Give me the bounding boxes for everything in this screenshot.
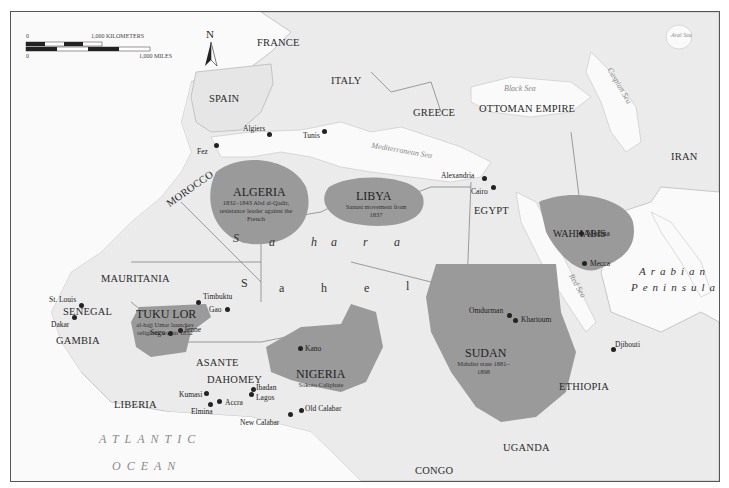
label-aral-sea: Aral Sea — [671, 32, 692, 38]
label-liberia: LIBERIA — [114, 400, 157, 411]
city-new-calabar: New Calabar — [240, 419, 279, 427]
city-medina: Medina — [587, 230, 610, 238]
label-sahel-4: e — [364, 282, 374, 294]
label-sahara-5: r — [363, 236, 373, 248]
city-dot-lagos — [249, 392, 254, 397]
label-sahara-6: a — [394, 236, 405, 248]
label-france: FRANCE — [257, 38, 300, 49]
city-jenne: Jenne — [184, 326, 201, 334]
city-segu: Segu — [150, 329, 165, 337]
region-algeria-sub: 1832–1843 Abd al-Qadir, resistance leade… — [216, 199, 296, 222]
city-kumasi: Kumasi — [179, 391, 202, 399]
city-dot-segu — [168, 331, 173, 336]
city-dot-alexandria — [482, 176, 487, 181]
city-timbuktu: Timbuktu — [203, 293, 232, 301]
city-ibadan: Ibadan — [256, 384, 276, 392]
label-black-sea: Black Sea — [504, 85, 536, 93]
label-ocean: OCEAN — [112, 460, 181, 472]
city-tunis: Tunis — [303, 132, 320, 140]
city-dot-tunis — [322, 129, 327, 134]
city-dot-medina — [579, 231, 584, 236]
region-nigeria-sub: Sokoto Caliphate — [286, 381, 356, 389]
city-dot-old-calabar — [299, 408, 304, 413]
label-sahel-5: l — [406, 280, 414, 292]
city-lagos: Lagos — [256, 394, 274, 402]
scale-mi-label: 1,000 MILES — [139, 53, 172, 59]
label-iran: IRAN — [671, 152, 697, 163]
city-dot-mecca — [582, 261, 587, 266]
label-sahara-4: a — [331, 236, 342, 248]
label-italy: ITALY — [331, 76, 362, 87]
region-nigeria-title: NIGERIA — [296, 368, 345, 380]
city-dakar: Dakar — [51, 321, 69, 329]
label-sahel-2: a — [279, 282, 289, 294]
city-djibouti: Djibouti — [615, 341, 640, 349]
label-peninsula: Peninsula — [631, 282, 720, 293]
region-algeria-title: ALGERIA — [233, 186, 286, 198]
city-accra: Accra — [225, 399, 243, 407]
city-dot-kano — [298, 346, 303, 351]
map-frame: 0 1,000 KILOMETERS 0 1,000 MILES N FRANC… — [10, 11, 720, 482]
city-dot-jenne — [178, 328, 183, 333]
label-uganda: UGANDA — [503, 443, 550, 454]
city-cairo: Cairo — [471, 188, 488, 196]
city-st-louis: St. Louis — [49, 296, 76, 304]
label-arabian: Arabian — [639, 266, 710, 277]
city-omdurman: Omdurman — [469, 307, 503, 315]
city-dot-gao — [225, 307, 230, 312]
city-dot-kumasi — [204, 391, 209, 396]
label-mauritania: MAURITANIA — [101, 274, 170, 285]
scale-km-label: 1,000 KILOMETERS — [91, 33, 144, 39]
region-libya-sub: Sanusi movement from 1837 — [341, 203, 411, 219]
label-greece: GREECE — [413, 108, 455, 119]
region-libya-title: LIBYA — [356, 190, 391, 202]
label-dahomey: DAHOMEY — [207, 375, 262, 386]
city-dot-cairo — [491, 185, 496, 190]
compass-north-icon: N — [206, 29, 214, 40]
label-sahara-3: h — [311, 236, 322, 248]
city-elmina: Elmina — [191, 408, 213, 416]
city-old-calabar: Old Calabar — [305, 405, 341, 413]
region-tukulor-title: TUKU LOR — [136, 308, 196, 320]
city-dot-accra — [217, 399, 222, 404]
city-gao: Gao — [209, 306, 222, 314]
city-dot-timbuktu — [196, 300, 201, 305]
label-gambia: GAMBIA — [56, 336, 100, 347]
city-dot-omdurman — [507, 313, 512, 318]
label-asante: ASANTE — [196, 358, 239, 369]
scale-mi-zero: 0 — [26, 53, 29, 59]
city-dot-khartoum — [513, 318, 518, 323]
label-ottoman-empire: OTTOMAN EMPIRE — [479, 104, 575, 115]
region-sudan-sub: Mahdist state 1881–1898 — [456, 360, 511, 376]
label-ethiopia: ETHIOPIA — [559, 382, 609, 393]
city-kano: Kano — [305, 345, 321, 353]
city-mecca: Mecca — [590, 260, 610, 268]
label-atlantic: ATLANTIC — [99, 433, 201, 445]
label-sahara-2: a — [269, 236, 280, 248]
city-dot-new-calabar — [288, 412, 293, 417]
label-sahel-1: S — [241, 277, 253, 289]
city-fez: Fez — [197, 148, 208, 156]
city-dot-algiers — [267, 132, 272, 137]
city-alexandria: Alexandria — [441, 172, 474, 180]
city-dot-dakar — [72, 315, 77, 320]
city-algiers: Algiers — [243, 125, 265, 133]
label-spain: SPAIN — [209, 94, 239, 105]
label-sahara-1: S — [233, 232, 244, 244]
label-sahel-3: h — [321, 282, 332, 294]
city-dot-st-louis — [79, 303, 84, 308]
label-egypt: EGYPT — [474, 206, 509, 217]
city-khartoum: Khartoum — [521, 316, 551, 324]
label-senegal: SENEGAL — [63, 307, 112, 318]
region-sudan-title: SUDAN — [465, 347, 506, 359]
label-congo: CONGO — [415, 466, 453, 477]
city-dot-fez — [214, 143, 219, 148]
scale-km-zero: 0 — [26, 33, 29, 39]
